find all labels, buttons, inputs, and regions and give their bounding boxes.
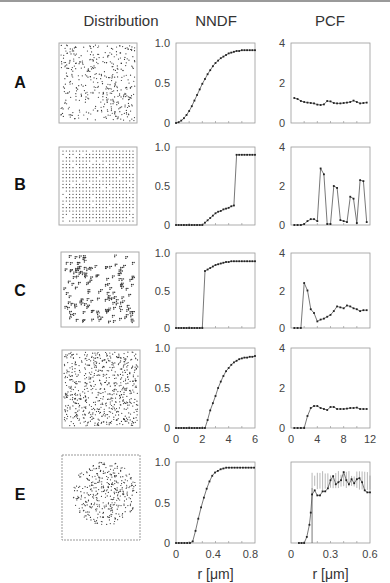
particle [95, 354, 96, 355]
particle [99, 180, 100, 181]
data-point [241, 49, 243, 51]
particle [129, 150, 130, 151]
particle [61, 63, 62, 64]
particle [90, 92, 91, 93]
particle [114, 375, 115, 376]
particle [83, 258, 84, 259]
data-point [246, 49, 248, 51]
particle [66, 357, 67, 358]
particle [133, 276, 134, 277]
particle [96, 411, 97, 412]
particle [85, 406, 86, 407]
particle [95, 384, 96, 385]
particle [111, 266, 112, 267]
particle [77, 418, 78, 419]
particle [111, 77, 112, 78]
particle [133, 81, 134, 82]
particle [103, 486, 104, 487]
particle [94, 366, 95, 367]
data-point [225, 467, 227, 469]
particle [97, 493, 98, 494]
data-point [336, 187, 338, 189]
x-tick-label: 12 [364, 433, 376, 445]
particle [61, 108, 62, 109]
x-tick-label: 0.8 [243, 548, 258, 560]
particle [84, 378, 85, 379]
particle [110, 506, 111, 507]
particle [85, 277, 86, 278]
particle [72, 187, 73, 188]
particle [74, 118, 75, 119]
particle [61, 67, 62, 68]
data-point [363, 180, 365, 182]
particle [111, 516, 112, 517]
particle [128, 103, 129, 104]
particle [106, 279, 107, 280]
x-tick-label: 0.4 [206, 548, 221, 560]
particle [66, 184, 67, 185]
particle [109, 164, 110, 165]
particle [106, 374, 107, 375]
particle [65, 411, 66, 412]
particle [122, 194, 123, 195]
particle [73, 283, 74, 284]
data-point [225, 208, 227, 210]
particle [69, 63, 70, 64]
data-point [366, 491, 368, 493]
particle [116, 513, 117, 514]
data-point [225, 54, 227, 56]
particle [72, 177, 73, 178]
particle [86, 385, 87, 386]
y-tick-label: 0 [279, 219, 285, 231]
particle [63, 116, 64, 117]
particle [100, 101, 101, 102]
particle [92, 496, 93, 497]
particle [96, 78, 97, 79]
particle [120, 374, 121, 375]
particle [82, 320, 83, 321]
particle [113, 119, 114, 120]
particle [97, 357, 98, 358]
particle [112, 184, 113, 185]
particle [108, 307, 109, 308]
data-point [246, 357, 248, 359]
particle [111, 405, 112, 406]
particle [65, 356, 66, 357]
particle [132, 207, 133, 208]
particle [89, 204, 90, 205]
data-point [245, 467, 247, 469]
particle [85, 505, 86, 506]
particle [99, 400, 100, 401]
particle [106, 405, 107, 406]
particle [67, 262, 68, 263]
data-point [241, 358, 243, 360]
particle [90, 417, 91, 418]
particle [79, 257, 80, 258]
particle [132, 105, 133, 106]
particle [68, 307, 69, 308]
data-point [206, 488, 208, 490]
particle [68, 371, 69, 372]
particle [114, 378, 115, 379]
data-point [310, 102, 312, 104]
particle [69, 367, 70, 368]
particle [70, 356, 71, 357]
particle [62, 180, 63, 181]
particle [126, 289, 127, 290]
particle [106, 167, 107, 168]
particle [99, 217, 100, 218]
particle [109, 157, 110, 158]
particle [96, 194, 97, 195]
particle [101, 462, 102, 463]
particle [106, 92, 107, 93]
data-point [316, 321, 318, 323]
data-point [244, 357, 246, 359]
data-point [233, 205, 235, 207]
particle [132, 405, 133, 406]
particle [130, 419, 131, 420]
particle [71, 69, 72, 70]
particle [118, 414, 119, 415]
particle [100, 407, 101, 408]
particle [131, 320, 132, 321]
particle [107, 384, 108, 385]
